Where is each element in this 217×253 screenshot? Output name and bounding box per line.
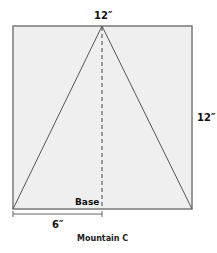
mountain-diagram <box>0 0 217 253</box>
half-base-label: 6″ <box>52 219 63 230</box>
top-width-label: 12″ <box>94 10 112 21</box>
right-height-label: 12″ <box>197 112 215 123</box>
base-label: Base <box>75 197 99 207</box>
figure-caption: Mountain C <box>77 234 128 243</box>
